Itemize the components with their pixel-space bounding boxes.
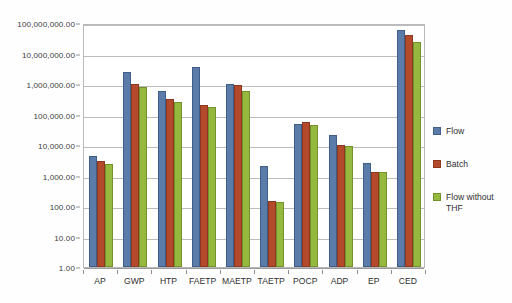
legend-item[interactable]: Batch [433,159,512,170]
bar-group [158,25,182,267]
x-tick-mark [220,270,221,274]
y-tick-mark [76,207,80,208]
x-tick-label: CED [399,276,417,286]
bar [345,146,353,267]
x-tick-mark [391,270,392,274]
bar [268,201,276,267]
bar [174,102,182,267]
bar [123,72,131,267]
x-tick-mark [322,270,323,274]
bar [337,145,345,267]
x-tick-label: ADP [331,276,349,286]
y-tick-label: 1.00 [59,264,75,273]
x-tick-mark [151,270,152,274]
y-tick-mark [76,146,80,147]
y-tick-label: 1,000,000.00 [27,81,75,90]
bar [97,161,105,267]
bar [302,122,310,267]
y-tick-mark [76,85,80,86]
bar [363,163,371,267]
y-tick-label: 100,000.00 [33,111,75,120]
bar-group [260,25,284,267]
y-tick-label: 10,000.00 [38,142,75,151]
y-axis: 1.0010.00100.001,000.0010,000.00100,000.… [0,24,80,268]
legend-item[interactable]: Flow [433,126,512,137]
bar [329,135,337,267]
x-tick-label: HTP [160,276,177,286]
x-tick-label: EP [368,276,379,286]
bar-group [226,25,250,267]
legend-label: Flow [446,126,464,137]
legend-swatch-icon [433,193,441,201]
y-tick-mark [76,237,80,238]
x-tick-mark [186,270,187,274]
x-tick-label: GWP [124,276,145,286]
bar [276,202,284,267]
gridline [84,268,424,269]
bar [397,30,405,267]
x-tick-label: POCP [293,276,317,286]
y-tick-label: 100.00 [50,203,75,212]
bar [192,67,200,267]
y-tick-label: 10.00 [54,233,75,242]
bar [294,124,302,267]
x-tick-label: FAETP [189,276,216,286]
y-tick-mark [76,54,80,55]
bar-group [123,25,147,267]
bar [379,172,387,267]
bar-group [363,25,387,267]
y-tick-mark [76,24,80,25]
x-tick-label: AP [94,276,105,286]
y-tick-label: 100,000,000.00 [17,20,75,29]
bar [226,84,234,267]
bar [405,35,413,267]
x-tick-mark [83,270,84,274]
x-axis: APGWPHTPFAETPMAETPTAETPPOCPADPEPCED [83,270,425,290]
legend-item[interactable]: Flow without THF [433,192,512,214]
bar-group [89,25,113,267]
bar [260,166,268,267]
legend-swatch-icon [433,127,441,135]
legend-swatch-icon [433,160,441,168]
bar-group [329,25,353,267]
bar [158,91,166,267]
y-tick-mark [76,176,80,177]
y-tick-mark [76,115,80,116]
bar [310,125,318,267]
bar [234,85,242,267]
x-tick-mark [357,270,358,274]
bar [200,105,208,267]
bar [166,99,174,267]
plot-area [83,24,425,268]
legend-label: Batch [446,159,468,170]
bar [208,107,216,267]
bar [242,91,250,267]
bar [89,156,97,267]
bar [139,87,147,267]
y-tick-label: 1,000.00 [43,172,75,181]
chart-legend: FlowBatchFlow without THF [433,126,512,236]
chart-container: 1.0010.00100.001,000.0010,000.00100,000.… [0,0,512,303]
y-tick-mark [76,268,80,269]
y-tick-label: 10,000,000.00 [22,50,75,59]
bar-group [294,25,318,267]
x-tick-mark [254,270,255,274]
x-tick-label: MAETP [222,276,252,286]
bar-group [397,25,421,267]
bar [413,42,421,267]
bar-group [192,25,216,267]
x-tick-label: TAETP [258,276,285,286]
x-tick-mark [425,270,426,274]
bar [131,84,139,267]
x-tick-mark [117,270,118,274]
legend-label: Flow without THF [446,192,508,214]
bar [371,172,379,267]
x-tick-mark [288,270,289,274]
bar [105,164,113,267]
